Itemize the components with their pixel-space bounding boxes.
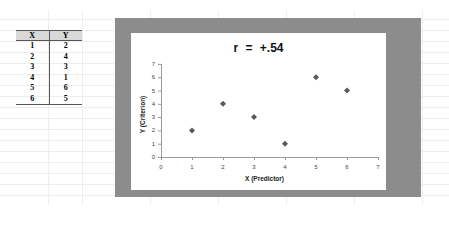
x-tick-label: 2: [221, 164, 225, 170]
scatter-plot: 0123456701234567X (Predictor)Y (Criterio…: [131, 33, 386, 190]
cell-x[interactable]: 6: [16, 94, 49, 105]
data-point-diamond-icon[interactable]: [282, 141, 288, 147]
cell-y[interactable]: 1: [49, 73, 82, 84]
x-axis-label: X (Predictor): [245, 175, 284, 183]
y-tick-label: 1: [152, 141, 156, 147]
cell-y[interactable]: 4: [49, 52, 82, 63]
column-header-x: X: [16, 31, 49, 41]
x-tick-label: 1: [190, 164, 194, 170]
y-tick-label: 2: [152, 127, 156, 133]
table-row: 12: [16, 41, 82, 52]
cell-x[interactable]: 1: [16, 41, 49, 52]
cell-y[interactable]: 2: [49, 41, 82, 52]
cell-x[interactable]: 3: [16, 62, 49, 73]
x-tick-label: 6: [345, 164, 349, 170]
column-header-y: Y: [49, 31, 82, 41]
table-row: 56: [16, 83, 82, 94]
y-tick-label: 3: [152, 114, 156, 120]
cell-x[interactable]: 5: [16, 83, 49, 94]
x-tick-label: 4: [283, 164, 287, 170]
data-point-diamond-icon[interactable]: [220, 101, 226, 107]
y-tick-label: 7: [152, 61, 156, 67]
y-tick-label: 0: [152, 154, 156, 160]
x-tick-label: 0: [159, 164, 163, 170]
x-tick-label: 3: [252, 164, 256, 170]
data-point-diamond-icon[interactable]: [189, 127, 195, 133]
cell-y[interactable]: 3: [49, 62, 82, 73]
cell-y[interactable]: 5: [49, 94, 82, 105]
y-tick-label: 5: [152, 88, 156, 94]
cell-x[interactable]: 4: [16, 73, 49, 84]
chart-area[interactable]: r = +.54 0123456701234567X (Predictor)Y …: [131, 33, 386, 190]
y-axis-label: Y (Criterion): [139, 96, 147, 133]
y-tick-label: 4: [152, 101, 156, 107]
x-tick-label: 7: [376, 164, 380, 170]
table-row: 65: [16, 94, 82, 105]
data-point-diamond-icon[interactable]: [251, 114, 257, 120]
x-tick-label: 5: [314, 164, 318, 170]
y-tick-label: 6: [152, 74, 156, 80]
table-row: 24: [16, 52, 82, 63]
cell-y[interactable]: 6: [49, 83, 82, 94]
table-row: 41: [16, 73, 82, 84]
data-table: X Y 12 24 33 41 56 65: [16, 30, 82, 105]
data-point-diamond-icon[interactable]: [344, 88, 350, 94]
table-row: 33: [16, 62, 82, 73]
cell-x[interactable]: 2: [16, 52, 49, 63]
data-point-diamond-icon[interactable]: [313, 74, 319, 80]
